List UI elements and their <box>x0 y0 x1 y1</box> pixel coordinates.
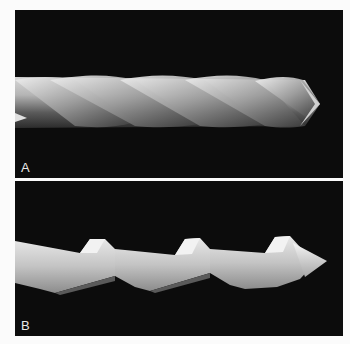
panel-b-micrograph: B <box>15 181 343 336</box>
twisted-drill-illustration <box>15 10 343 178</box>
panel-a-micrograph: A <box>15 10 343 178</box>
panel-label-b: B <box>21 319 30 332</box>
stepped-drill-illustration <box>15 181 343 336</box>
panel-label-a: A <box>21 161 30 174</box>
